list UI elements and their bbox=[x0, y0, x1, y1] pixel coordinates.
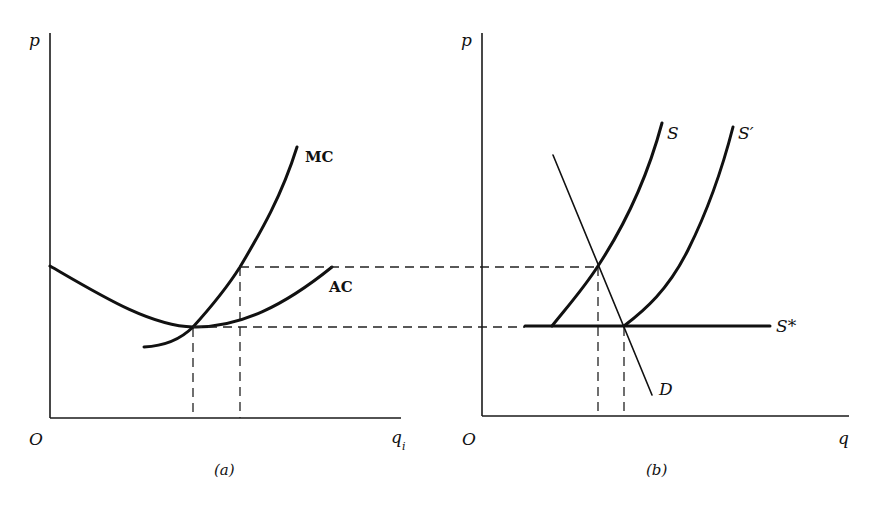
panel-b-y-axis-label: p bbox=[461, 30, 472, 50]
panel-a-x-axis-subscript: i bbox=[402, 440, 406, 453]
supply-curve-s-prime bbox=[624, 127, 733, 326]
economics-figure: p O q i MC AC (a) p O q S S′ S* D (b) bbox=[0, 0, 874, 506]
mc-label: MC bbox=[305, 148, 334, 166]
panel-b-x-axis-label: q bbox=[838, 428, 849, 448]
panel-b-origin-label: O bbox=[462, 429, 476, 449]
panel-b: p O q S S′ S* D (b) bbox=[461, 30, 849, 479]
s-star-label: S* bbox=[776, 316, 797, 336]
d-label: D bbox=[658, 379, 673, 399]
supply-curve-s bbox=[552, 123, 662, 326]
panel-a: p O q i MC AC (a) bbox=[29, 30, 406, 479]
panel-a-origin-label: O bbox=[29, 429, 43, 449]
panel-a-caption: (a) bbox=[214, 461, 235, 479]
mc-curve bbox=[144, 147, 297, 347]
s-prime-label: S′ bbox=[738, 123, 754, 143]
panel-b-caption: (b) bbox=[646, 461, 667, 479]
panel-a-x-axis-label: q bbox=[391, 427, 402, 447]
ac-curve bbox=[50, 266, 332, 327]
ac-label: AC bbox=[328, 278, 353, 296]
panel-a-y-axis-label: p bbox=[29, 30, 40, 50]
s-label: S bbox=[667, 123, 679, 143]
